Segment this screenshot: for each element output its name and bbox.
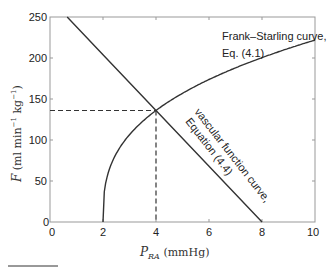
x-tick-labels: 0 2 4 6 8 10: [49, 226, 319, 238]
svg-text:0: 0: [49, 226, 55, 238]
frank-starling-label-1: Frank–Starling curve,: [222, 30, 327, 42]
y-tick-labels: 0 50 100 150 200 250: [29, 11, 49, 228]
plot-area: [50, 17, 315, 222]
y-axis-label: F (ml min−1 kg−1): [10, 85, 24, 183]
svg-text:10: 10: [307, 226, 319, 238]
vascular-label-1: vascular function curve,: [192, 106, 273, 204]
svg-text:150: 150: [29, 93, 47, 105]
svg-text:200: 200: [29, 52, 47, 64]
svg-text:250: 250: [29, 11, 47, 23]
y-ticks: [50, 58, 315, 181]
frank-starling-label-2: Eq. (4.1): [222, 47, 264, 59]
svg-text:6: 6: [206, 226, 212, 238]
svg-text:50: 50: [35, 175, 47, 187]
svg-text:0: 0: [43, 216, 49, 228]
svg-text:8: 8: [259, 226, 265, 238]
equilibrium-guides: [50, 111, 156, 223]
chart: 0 2 4 6 8 10 0 50 100 150 200 250 Frank–…: [0, 0, 331, 267]
svg-text:100: 100: [29, 134, 47, 146]
x-axis-label: PRA (mmHg): [139, 245, 209, 261]
svg-text:2: 2: [100, 226, 106, 238]
svg-text:4: 4: [153, 226, 159, 238]
